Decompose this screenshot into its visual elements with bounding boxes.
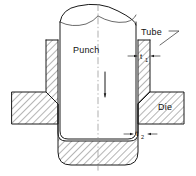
t2-subscript: 2 [141,134,144,140]
die-label: Die [158,102,172,112]
tube-label: Tube [141,27,162,37]
t1-subscript: 1 [145,57,148,63]
diagram-canvas: t 1 t 2 Punch Tube Die [0,0,196,176]
tube-ironing-diagram: t 1 t 2 Punch Tube Die [0,0,196,176]
punch-label: Punch [73,45,100,55]
